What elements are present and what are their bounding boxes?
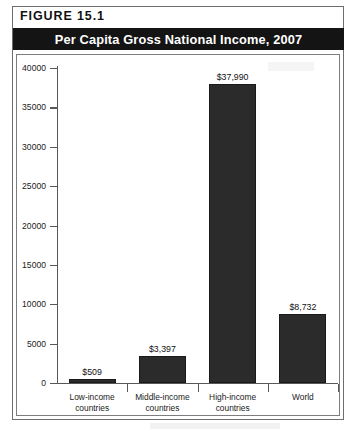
bar-value-label: $3,397 — [149, 344, 176, 354]
y-tick-mark — [50, 107, 57, 108]
scan-artifact — [268, 62, 314, 71]
x-category-tick — [268, 384, 269, 392]
y-tick-mark — [50, 344, 57, 345]
x-category-tick — [127, 384, 128, 392]
y-tick-label: 0 — [41, 378, 46, 388]
category-label-line: Low-income — [70, 392, 115, 403]
y-tick-mark — [50, 383, 57, 384]
y-tick-mark — [50, 68, 57, 69]
x-category-label: Low-incomecountries — [70, 392, 115, 413]
x-category-tick — [198, 384, 199, 392]
x-category-tick — [338, 384, 339, 392]
y-tick-mark — [50, 186, 57, 187]
bar-value-label: $509 — [82, 367, 102, 377]
x-category-label: High-incomecountries — [209, 392, 256, 413]
y-tick-label: 10000 — [22, 299, 46, 309]
bar-value-label: $8,732 — [289, 302, 316, 312]
bar — [279, 314, 326, 383]
category-label-line: countries — [70, 403, 115, 414]
bar — [139, 356, 186, 383]
y-tick-label: 30000 — [22, 142, 46, 152]
bar-value-label: $37,990 — [217, 72, 249, 82]
y-tick-mark — [50, 265, 57, 266]
y-tick-label: 35000 — [22, 102, 46, 112]
y-tick-mark — [50, 147, 57, 148]
category-label-line: Middle-income — [135, 392, 189, 403]
x-category-label: World — [292, 392, 314, 403]
y-tick-label: 40000 — [22, 63, 46, 73]
bar — [69, 379, 116, 383]
y-tick-mark — [50, 226, 57, 227]
category-label-line: countries — [209, 403, 256, 414]
category-label-line: High-income — [209, 392, 256, 403]
category-label-line: countries — [135, 403, 189, 414]
category-label-line: World — [292, 392, 314, 403]
x-category-label: Middle-incomecountries — [135, 392, 189, 413]
y-tick-label: 5000 — [27, 339, 46, 349]
y-tick-mark — [50, 304, 57, 305]
bar — [209, 84, 256, 383]
y-tick-label: 15000 — [22, 260, 46, 270]
y-tick-label: 25000 — [22, 181, 46, 191]
y-axis-line — [57, 66, 58, 384]
y-tick-label: 20000 — [22, 221, 46, 231]
scan-artifact-bottom — [150, 423, 280, 429]
